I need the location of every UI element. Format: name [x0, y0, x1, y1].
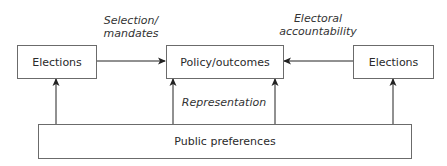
label-line: accountability: [278, 25, 358, 38]
node-elections-left: Elections: [17, 45, 97, 79]
node-label: Public preferences: [174, 135, 275, 148]
label-text: Representation: [182, 96, 266, 109]
edge-label-selection-mandates: Selection/ mandates: [96, 14, 166, 40]
node-label: Elections: [369, 56, 419, 69]
label-line: Electoral: [278, 12, 358, 25]
node-policy-outcomes: Policy/outcomes: [166, 45, 284, 79]
edge-label-electoral-accountability: Electoral accountability: [278, 12, 358, 38]
label-line: Selection/: [96, 14, 166, 27]
node-label: Policy/outcomes: [180, 56, 269, 69]
node-public-preferences: Public preferences: [38, 124, 412, 159]
label-line: mandates: [96, 27, 166, 40]
node-elections-right: Elections: [353, 45, 434, 79]
edge-label-representation: Representation: [174, 96, 274, 109]
node-label: Elections: [32, 56, 82, 69]
